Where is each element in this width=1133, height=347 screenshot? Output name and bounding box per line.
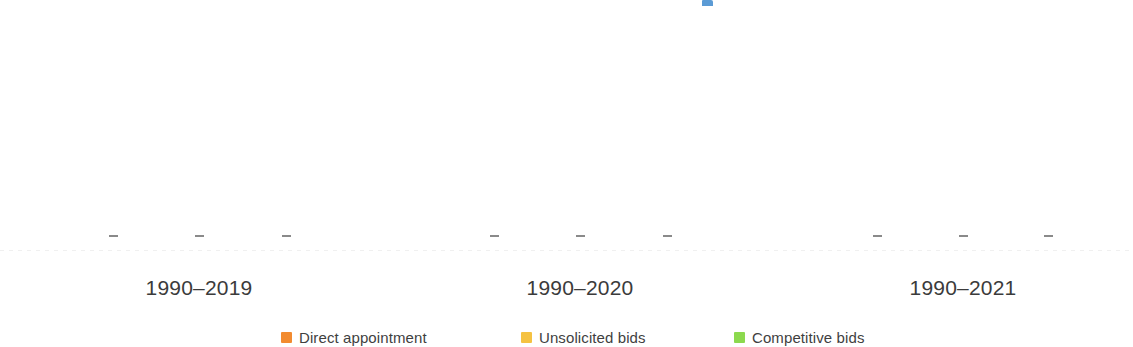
legend-item[interactable]: Direct appointment <box>281 328 427 347</box>
chart-legend: Direct appointmentUnsolicited bidsCompet… <box>0 328 1133 347</box>
x-axis-tick <box>109 235 118 237</box>
x-axis-tick <box>195 235 204 237</box>
legend-swatch-icon <box>521 332 532 343</box>
x-axis-tick <box>663 235 672 237</box>
legend-swatch-icon <box>281 332 292 343</box>
x-axis-tick <box>576 235 585 237</box>
bar-chart-figure: 1990–20191990–20201990–2021 Direct appoi… <box>0 0 1133 347</box>
x-axis-tick <box>959 235 968 237</box>
x-axis-tick <box>282 235 291 237</box>
plot-area <box>0 0 1133 236</box>
legend-item-label: Competitive bids <box>752 328 864 347</box>
legend-item-label: Direct appointment <box>299 328 427 347</box>
x-axis-tick <box>1044 235 1053 237</box>
clipped-bar-segment <box>702 0 713 6</box>
x-axis-tick <box>490 235 499 237</box>
legend-swatch-icon <box>734 332 745 343</box>
x-axis-category-label: 1990–2021 <box>910 276 1017 300</box>
legend-item[interactable]: Unsolicited bids <box>521 328 646 347</box>
legend-item-label: Unsolicited bids <box>539 328 646 347</box>
x-axis-category-label: 1990–2019 <box>146 276 253 300</box>
x-axis-category-label: 1990–2020 <box>527 276 634 300</box>
x-axis-tick <box>873 235 882 237</box>
legend-item[interactable]: Competitive bids <box>734 328 864 347</box>
x-axis-baseline <box>0 250 1133 251</box>
